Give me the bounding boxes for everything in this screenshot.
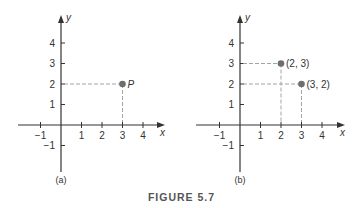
x-tick-label: 2 [99, 130, 105, 141]
figure-canvas: xy−11234−11234P(a) xy−11234−11234(2, 3)(… [0, 0, 363, 208]
x-tick-label: 4 [319, 130, 325, 141]
x-tick-label: 2 [278, 130, 284, 141]
point-label: P [128, 79, 135, 90]
data-point [119, 81, 126, 88]
y-tick-label: −1 [223, 140, 235, 151]
x-tick-label: 3 [299, 130, 305, 141]
y-axis-arrow-icon [58, 15, 64, 23]
x-axis-label: x [159, 127, 166, 138]
y-axis-label: y [65, 12, 72, 23]
x-tick-label: 4 [140, 130, 146, 141]
panel-caption: (a) [56, 175, 67, 185]
data-point [278, 60, 285, 67]
figure-title: FIGURE 5.7 [0, 191, 363, 203]
y-tick-label: 2 [228, 79, 234, 90]
panel-a: xy−11234−11234P(a) [18, 12, 166, 185]
y-tick-label: 4 [49, 38, 55, 49]
x-tick-label: 1 [79, 130, 85, 141]
y-tick-label: 1 [49, 99, 55, 110]
y-axis-label: y [244, 12, 251, 23]
y-tick-label: −1 [44, 140, 56, 151]
x-tick-label: 3 [120, 130, 126, 141]
y-tick-label: 3 [49, 58, 55, 69]
y-axis-arrow-icon [237, 15, 243, 23]
point-label: (3, 2) [307, 79, 330, 90]
panel-caption: (b) [235, 175, 246, 185]
data-point [298, 81, 305, 88]
y-tick-label: 4 [228, 38, 234, 49]
y-tick-label: 3 [228, 58, 234, 69]
panel-b: xy−11234−11234(2, 3)(3, 2)(b) [196, 12, 346, 185]
y-tick-label: 2 [49, 79, 55, 90]
point-label: (2, 3) [286, 58, 309, 69]
x-tick-label: 1 [258, 130, 264, 141]
x-axis-label: x [339, 127, 346, 138]
y-tick-label: 1 [228, 99, 234, 110]
